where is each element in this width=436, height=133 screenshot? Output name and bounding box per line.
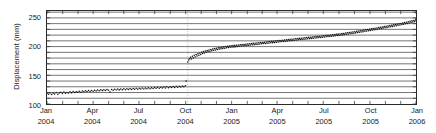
x-tick-year: 2004 bbox=[38, 117, 55, 128]
data-series-displacement bbox=[47, 11, 416, 104]
x-tick-month: Jul bbox=[315, 106, 332, 117]
plot-area bbox=[46, 10, 417, 105]
x-tick-label: Jul2004 bbox=[130, 106, 147, 127]
y-tick-label: 150 bbox=[1, 71, 41, 80]
x-axis-tick-labels: Jan2004Apr2004Jul2004Oct2004Jan2005Apr20… bbox=[46, 106, 417, 133]
x-tick-year: 2006 bbox=[409, 117, 426, 128]
x-tick-month: Jul bbox=[130, 106, 147, 117]
displacement-time-series-chart: Displacement (mm) 100150200250 Jan2004Ap… bbox=[0, 0, 436, 133]
x-tick-year: 2004 bbox=[130, 117, 147, 128]
x-tick-label: Jan2005 bbox=[223, 106, 240, 127]
x-tick-year: 2005 bbox=[269, 117, 286, 128]
y-tick-label: 100 bbox=[1, 101, 41, 110]
x-tick-year: 2005 bbox=[362, 117, 379, 128]
x-tick-year: 2004 bbox=[84, 117, 101, 128]
x-tick-month: Jan bbox=[38, 106, 55, 117]
x-tick-month: Oct bbox=[177, 106, 194, 117]
x-tick-label: Jan2004 bbox=[38, 106, 55, 127]
y-axis-tick-labels: 100150200250 bbox=[0, 10, 44, 105]
y-tick-label: 200 bbox=[1, 42, 41, 51]
x-tick-year: 2005 bbox=[315, 117, 332, 128]
x-tick-label: Apr2004 bbox=[84, 106, 101, 127]
x-tick-label: Oct2004 bbox=[177, 106, 194, 127]
x-tick-month: Jan bbox=[223, 106, 240, 117]
x-tick-year: 2004 bbox=[177, 117, 194, 128]
x-tick-month: Oct bbox=[362, 106, 379, 117]
x-tick-month: Apr bbox=[84, 106, 101, 117]
x-tick-year: 2005 bbox=[223, 117, 240, 128]
x-tick-label: Oct2005 bbox=[362, 106, 379, 127]
y-tick-label: 250 bbox=[1, 13, 41, 22]
x-tick-month: Apr bbox=[269, 106, 286, 117]
x-tick-label: Jan2006 bbox=[409, 106, 426, 127]
x-tick-month: Jan bbox=[409, 106, 426, 117]
x-tick-label: Apr2005 bbox=[269, 106, 286, 127]
x-tick-label: Jul2005 bbox=[315, 106, 332, 127]
